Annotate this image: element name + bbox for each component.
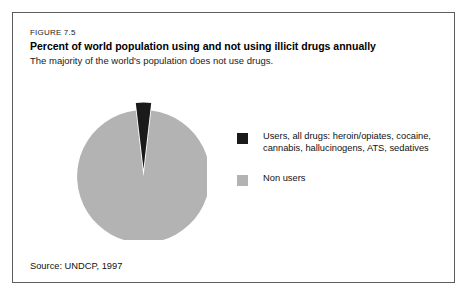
legend-swatch-users-icon — [237, 133, 248, 144]
legend-item-non-users: Non users — [237, 173, 447, 185]
legend-swatch-non-users-icon — [237, 175, 248, 186]
legend-item-users: Users, all drugs: heroin/opiates, cocain… — [237, 131, 447, 154]
figure-subtitle: The majority of the world's population d… — [30, 55, 273, 66]
chart-legend: Users, all drugs: heroin/opiates, cocain… — [237, 131, 447, 204]
source-note: Source: UNDCP, 1997 — [30, 261, 122, 271]
legend-label-users: Users, all drugs: heroin/opiates, cocain… — [263, 131, 447, 154]
pie-chart-svg — [57, 75, 207, 240]
legend-label-non-users: Non users — [263, 173, 447, 185]
figure-frame: FIGURE 7.5 Percent of world population u… — [12, 12, 455, 283]
figure-number-label: FIGURE 7.5 — [30, 28, 76, 37]
pie-chart — [57, 75, 207, 240]
figure-title: Percent of world population using and no… — [30, 40, 376, 52]
